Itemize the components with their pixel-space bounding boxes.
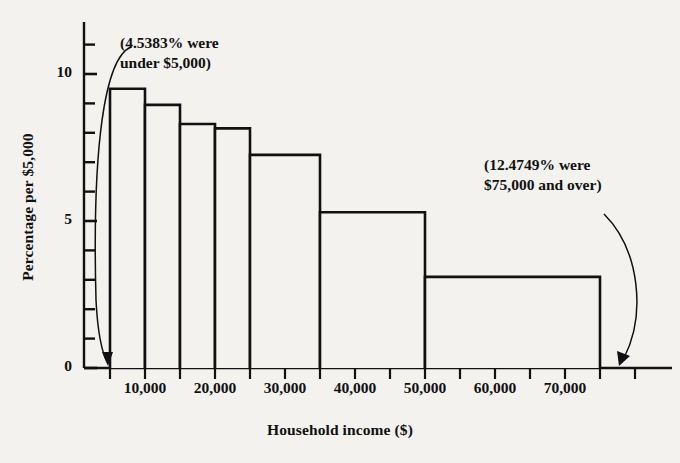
y-axis-label: Percentage per $5,000 (19, 107, 37, 307)
annotation-arrow-right (604, 214, 637, 358)
histogram-bar-5 (320, 212, 425, 368)
histogram-figure: Percentage per $5,000 Household income (… (0, 0, 680, 463)
y-tick-label-5: 5 (32, 210, 72, 228)
plot-area: Percentage per $5,000 Household income (… (0, 0, 680, 463)
histogram-bar-2 (180, 124, 215, 368)
histogram-bar-1 (145, 105, 180, 368)
x-axis-label: Household income ($) (0, 421, 680, 439)
histogram-bar-0 (110, 89, 145, 368)
annotation-under-5000: (4.5383% were under $5,000) (120, 33, 219, 73)
annotation-75000-and-over: (12.4749% were $75,000 and over) (484, 155, 602, 195)
histogram-bar-3 (215, 128, 250, 368)
y-tick-label-10: 10 (32, 63, 72, 81)
y-tick-label-0: 0 (32, 357, 72, 375)
histogram-bar-6 (425, 277, 600, 368)
histogram-bar-4 (250, 155, 320, 368)
annotation-arrowhead-right (617, 351, 630, 366)
x-tick-label-70000: 70,000 (520, 379, 610, 397)
